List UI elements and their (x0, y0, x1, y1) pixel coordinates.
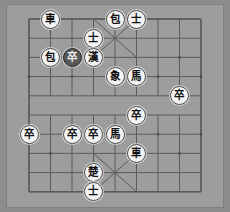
piece-glyph: 士 (88, 186, 98, 198)
piece-chariot[interactable]: 車 (127, 144, 146, 163)
piece-glyph: 象 (110, 71, 120, 83)
piece-glyph: 車 (131, 148, 141, 160)
piece-glyph: 馬 (110, 128, 120, 140)
piece-cannon[interactable]: 包 (41, 48, 60, 67)
board-surface[interactable]: 車包士士包卒漢象馬卒卒卒卒卒馬車楚士 (7, 5, 225, 209)
piece-soldier[interactable]: 卒 (127, 106, 146, 125)
piece-advisor[interactable]: 士 (84, 29, 103, 48)
piece-glyph: 楚 (88, 167, 98, 179)
piece-horse[interactable]: 馬 (127, 67, 146, 86)
piece-glyph: 卒 (131, 109, 141, 121)
xiangqi-app: 車包士士包卒漢象馬卒卒卒卒卒馬車楚士 (0, 0, 230, 212)
piece-soldier[interactable]: 卒 (84, 125, 103, 144)
piece-soldier[interactable]: 卒 (20, 125, 39, 144)
piece-glyph: 馬 (131, 71, 141, 83)
piece-glyph: 車 (45, 13, 55, 25)
piece-elephant[interactable]: 象 (106, 67, 125, 86)
piece-horse[interactable]: 馬 (106, 125, 125, 144)
piece-soldier[interactable]: 卒 (63, 125, 82, 144)
piece-glyph: 士 (131, 13, 141, 25)
piece-han-king[interactable]: 漢 (84, 48, 103, 67)
piece-chariot[interactable]: 車 (41, 10, 60, 29)
board-frame: 車包士士包卒漢象馬卒卒卒卒卒馬車楚士 (6, 4, 224, 208)
piece-advisor[interactable]: 士 (127, 10, 146, 29)
piece-glyph: 卒 (88, 128, 98, 140)
piece-glyph: 卒 (24, 128, 34, 140)
piece-glyph: 卒 (174, 90, 184, 102)
piece-soldier[interactable]: 卒 (63, 48, 82, 67)
piece-glyph: 包 (45, 52, 55, 64)
board-grid (7, 5, 225, 209)
piece-glyph: 士 (88, 32, 98, 44)
piece-cannon[interactable]: 包 (106, 10, 125, 29)
piece-glyph: 卒 (67, 128, 77, 140)
piece-glyph: 卒 (67, 52, 77, 64)
piece-glyph: 包 (110, 13, 120, 25)
piece-glyph: 漢 (88, 52, 98, 64)
piece-chu-king[interactable]: 楚 (84, 163, 103, 182)
